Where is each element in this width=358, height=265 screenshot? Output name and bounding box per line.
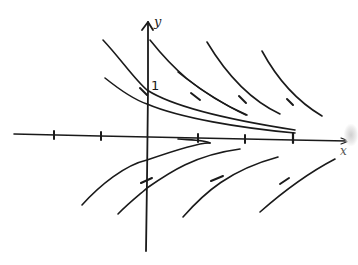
slope-mark bbox=[287, 99, 293, 105]
scan-smudge bbox=[344, 124, 358, 146]
slope-mark bbox=[239, 96, 246, 103]
lower-solution-curves bbox=[82, 139, 335, 217]
slope-marks bbox=[140, 88, 293, 184]
solution-curve bbox=[262, 51, 322, 116]
solution-curve bbox=[178, 72, 246, 115]
x-axis bbox=[14, 131, 349, 144]
slope-mark bbox=[211, 176, 223, 181]
y-intercept-label: 1 bbox=[151, 78, 159, 93]
y-axis-label: y bbox=[154, 14, 161, 29]
solution-curve bbox=[207, 42, 280, 114]
solution-curve bbox=[103, 40, 295, 130]
solution-curve bbox=[260, 159, 335, 212]
slope-mark bbox=[191, 93, 200, 100]
slope-mark bbox=[280, 178, 289, 184]
x-axis-label: x bbox=[340, 144, 347, 158]
upper-solution-curves bbox=[103, 40, 322, 133]
